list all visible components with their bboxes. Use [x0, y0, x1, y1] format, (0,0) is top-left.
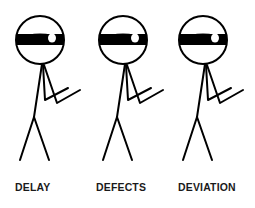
- stick-figure-defects-icon: [99, 16, 163, 160]
- stick-figures: [0, 0, 255, 208]
- label-deviation: DEVIATION: [178, 181, 236, 193]
- label-defects: DEFECTS: [96, 181, 146, 193]
- label-delay: DELAY: [15, 181, 50, 193]
- stick-figure-delay-icon: [16, 16, 80, 160]
- stick-figure-deviation-icon: [179, 16, 243, 160]
